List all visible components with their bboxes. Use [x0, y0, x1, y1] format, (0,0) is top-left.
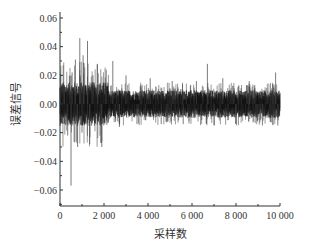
x-tick-label: 10 000 — [266, 210, 294, 221]
plot-area — [60, 38, 280, 186]
y-axis-title: 误差信号 — [9, 82, 23, 126]
y-tick-label: 0.02 — [40, 70, 58, 81]
x-tick-label: 0 — [58, 210, 63, 221]
y-tick-label: −0.04 — [34, 156, 57, 167]
error-signal-chart: 0.060.040.020.00−0.02−0.04−0.0602 0004 0… — [0, 0, 309, 250]
y-tick-label: −0.06 — [34, 185, 57, 196]
y-tick-label: 0.04 — [40, 41, 58, 52]
y-tick-label: −0.02 — [34, 127, 57, 138]
y-tick-label: 0.00 — [40, 99, 58, 110]
y-tick-label: 0.06 — [40, 13, 58, 24]
x-tick-label: 2 000 — [93, 210, 116, 221]
x-tick-label: 6 000 — [181, 210, 204, 221]
x-axis-title: 采样数 — [154, 227, 187, 241]
x-tick-label: 4 000 — [137, 210, 160, 221]
x-tick-label: 8 000 — [225, 210, 248, 221]
